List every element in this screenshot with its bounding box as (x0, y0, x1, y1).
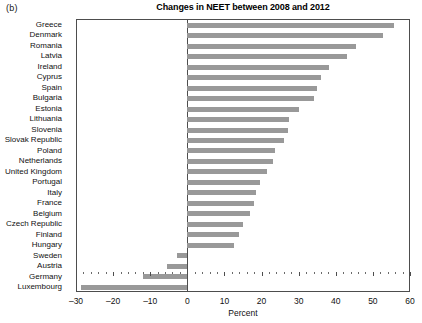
category-label: Latvia (0, 51, 62, 61)
x-axis-tick (187, 272, 188, 276)
category-label: Germany (0, 272, 62, 282)
x-axis-tick (299, 272, 300, 276)
category-label: Portugal (0, 177, 62, 187)
plot-area: GreeceDenmarkRomaniaLatviaIrelandCyprusS… (76, 19, 410, 292)
bar (167, 264, 187, 269)
x-axis-tick (336, 272, 337, 276)
bar-row: Denmark (76, 30, 410, 40)
x-axis-minor-tick (351, 272, 352, 274)
x-axis-minor-tick (343, 272, 344, 274)
bar (187, 222, 243, 227)
chart-title: Changes in NEET between 2008 and 2012 (76, 2, 410, 12)
bar-row: Italy (76, 188, 410, 198)
bar (177, 253, 187, 258)
category-label: France (0, 198, 62, 208)
bar (187, 117, 289, 122)
x-axis-tick-label: 50 (368, 296, 377, 306)
x-axis-tick (76, 272, 77, 276)
x-axis-tick-label: 40 (331, 296, 340, 306)
x-axis-minor-tick (232, 272, 233, 274)
bar (187, 96, 313, 101)
bar-row: Portugal (76, 177, 410, 187)
x-axis-minor-tick (217, 272, 218, 274)
category-label: Italy (0, 188, 62, 198)
x-axis-minor-tick (314, 272, 315, 274)
bar (187, 190, 256, 195)
x-axis-minor-tick (158, 272, 159, 274)
x-axis-minor-tick (91, 272, 92, 274)
x-axis-minor-tick (195, 272, 196, 274)
category-label: Greece (0, 20, 62, 30)
bar (187, 138, 283, 143)
x-axis-minor-tick (328, 272, 329, 274)
bar (187, 75, 321, 80)
x-axis-minor-tick (165, 272, 166, 274)
bar-row: Czech Republic (76, 219, 410, 229)
bar-row: Poland (76, 146, 410, 156)
x-axis-minor-tick (269, 272, 270, 274)
x-axis-tick (150, 272, 151, 276)
category-label: Estonia (0, 104, 62, 114)
category-label: Ireland (0, 62, 62, 72)
x-axis-minor-tick (247, 272, 248, 274)
x-axis-minor-tick (128, 272, 129, 274)
bar-row: Romania (76, 41, 410, 51)
bar-row: Belgium (76, 209, 410, 219)
panel-label: (b) (6, 3, 18, 13)
bar (187, 86, 317, 91)
x-axis-minor-tick (121, 272, 122, 274)
category-label: Lithuania (0, 114, 62, 124)
x-axis-tick-label: 20 (257, 296, 266, 306)
x-axis-minor-tick (202, 272, 203, 274)
bar (187, 180, 259, 185)
bar-row: Greece (76, 20, 410, 30)
x-axis-tick (373, 272, 374, 276)
x-axis-minor-tick (106, 272, 107, 274)
bar (187, 107, 298, 112)
x-axis-minor-tick (365, 272, 366, 274)
x-axis-tick-label: 10 (220, 296, 229, 306)
category-label: Poland (0, 146, 62, 156)
bar-row: Ireland (76, 62, 410, 72)
x-axis-minor-tick (403, 272, 404, 274)
category-label: Belgium (0, 209, 62, 219)
x-axis-minor-tick (306, 272, 307, 274)
bar (187, 243, 233, 248)
bar (187, 211, 250, 216)
x-axis-minor-tick (358, 272, 359, 274)
bar (187, 159, 272, 164)
bar (81, 285, 187, 290)
bar-row: Bulgaria (76, 93, 410, 103)
category-label: Denmark (0, 30, 62, 40)
x-axis-minor-tick (83, 272, 84, 274)
x-axis-minor-tick (321, 272, 322, 274)
category-label: Bulgaria (0, 93, 62, 103)
x-axis-minor-tick (291, 272, 292, 274)
x-axis-tick (262, 272, 263, 276)
bar-row: Estonia (76, 104, 410, 114)
bar (187, 169, 267, 174)
bar-row: Latvia (76, 51, 410, 61)
bar-row: Spain (76, 83, 410, 93)
x-axis-tick (113, 272, 114, 276)
bar (187, 128, 287, 133)
bar-row: France (76, 198, 410, 208)
category-label: Finland (0, 230, 62, 240)
bar (187, 44, 356, 49)
bar (187, 33, 383, 38)
x-axis-minor-tick (239, 272, 240, 274)
bar-row: Cyprus (76, 72, 410, 82)
category-label: Austria (0, 261, 62, 271)
x-axis-minor-tick (98, 272, 99, 274)
bar-row: Luxembourg (76, 282, 410, 292)
x-axis-tick (410, 272, 411, 276)
x-axis-minor-tick (284, 272, 285, 274)
x-axis-tick-label: 30 (294, 296, 303, 306)
bar-row: Finland (76, 230, 410, 240)
x-axis-tick-label: –20 (106, 296, 120, 306)
category-label: Luxembourg (0, 282, 62, 292)
category-label: Slovak Republic (0, 135, 62, 145)
x-axis-minor-tick (395, 272, 396, 274)
x-axis-minor-tick (254, 272, 255, 274)
category-label: Netherlands (0, 156, 62, 166)
